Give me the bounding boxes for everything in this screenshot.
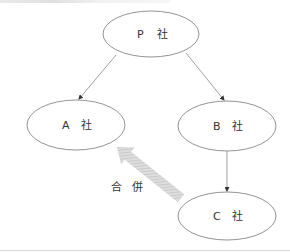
node-p-letter: P: [137, 28, 144, 41]
node-c: C 社: [178, 192, 276, 240]
node-b-suffix: 社: [232, 119, 243, 133]
node-p: P 社: [103, 11, 199, 57]
merge-label-char1: 合: [111, 180, 122, 194]
node-a-ellipse: [27, 100, 125, 150]
node-p-suffix: 社: [157, 27, 168, 41]
node-b: B 社: [178, 101, 276, 151]
merge-arrow: [110, 138, 188, 206]
node-b-ellipse: [178, 101, 276, 151]
node-c-suffix: 社: [232, 209, 243, 223]
node-c-ellipse: [178, 192, 276, 240]
edge-p-to-a: [79, 55, 116, 99]
node-a-suffix: 社: [81, 118, 92, 132]
merge-label-char2: 併: [132, 180, 143, 194]
node-a: A 社: [27, 100, 125, 150]
bottom-divider: [0, 250, 290, 251]
node-a-letter: A: [62, 119, 70, 132]
node-c-letter: C: [213, 210, 221, 223]
corporate-merger-diagram: P 社 A 社 B 社 C 社 合 併: [0, 0, 290, 252]
node-p-ellipse: [103, 11, 199, 57]
node-b-letter: B: [213, 120, 221, 133]
edge-p-to-b: [186, 53, 224, 100]
